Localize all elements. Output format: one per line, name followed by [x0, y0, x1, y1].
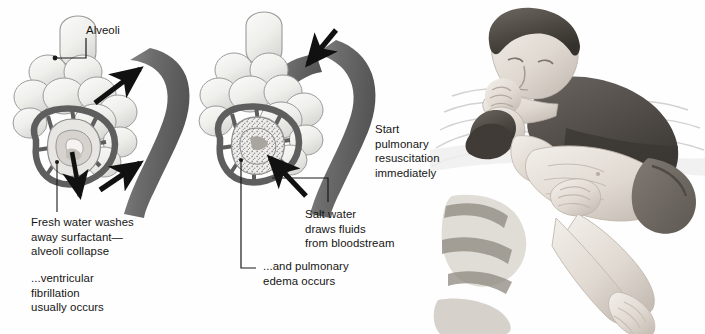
panel-fresh-water-art — [13, 16, 189, 218]
label-pulmonary-edema: ...and pulmonary edema occurs — [263, 259, 349, 288]
victim-navel-mark — [596, 172, 600, 176]
drowning-pathophysiology-figure: Alveoli Fresh water washes away surfacta… — [0, 0, 705, 334]
alveoli-leader-dot — [53, 56, 58, 61]
label-ventricular-fibrillation: ...ventricular fibrillation usually occu… — [31, 271, 104, 315]
illustration-artwork — [0, 0, 705, 334]
panel-rescue-art — [430, 8, 705, 334]
fresh-water-leader-dot — [55, 160, 59, 164]
label-fresh-water: Fresh water washes away surfactant— alve… — [31, 215, 134, 259]
label-start-resuscitation: Start pulmonary resuscitation immediatel… — [375, 122, 440, 180]
rescuer-leg-lower — [434, 298, 511, 334]
label-salt-water: Salt water draws fluids from bloodstream — [305, 207, 394, 251]
pulmonary-edema-leader-dot — [239, 158, 243, 162]
label-alveoli: Alveoli — [86, 23, 120, 38]
victim-hand-on-chest — [550, 179, 600, 216]
